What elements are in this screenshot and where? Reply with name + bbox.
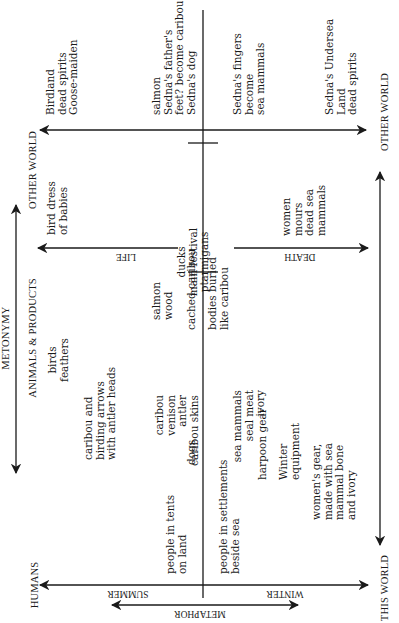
salmon-father-text-line: feet? become caribou	[173, 0, 185, 115]
settlements-text-line: beside sea	[229, 518, 241, 574]
women-mourn-text-line: women	[280, 198, 292, 236]
bodies-buried-text-line: like caribou	[218, 267, 230, 330]
women-mourn-text-line: mammals	[315, 185, 327, 236]
other-world-label-left: OTHER WORLD	[27, 131, 38, 209]
birdland-text-line: dead spirits	[56, 52, 68, 115]
dogs-text: dogs	[185, 440, 197, 465]
metaphor-label: METAPHOR	[174, 609, 226, 619]
salmon-father-text: salmonSedna's father'sfeet? become carib…	[150, 0, 197, 115]
salmon-father-text-line: Sedna's father's	[162, 30, 174, 115]
harpoon-text-line: harpoon gear	[256, 407, 268, 480]
bird-dress-text: bird dressof babies	[45, 181, 69, 235]
other-world-label-left-line: OTHER WORLD	[27, 131, 38, 209]
sedna-fingers-text-line: sea mammals	[254, 43, 266, 115]
animals-products-label-line: ANIMALS & PRODUCTS	[27, 278, 38, 398]
structural-diagram: OTHER WORLDOTHER WORLDTHIS WORLDHUMANSAN…	[0, 0, 399, 623]
metonymy-label: METONYMY	[0, 306, 11, 369]
metonymy-label-line: METONYMY	[0, 306, 11, 369]
this-world-label: THIS WORLD	[379, 555, 390, 621]
arrows-text-line: with antler heads	[105, 367, 117, 460]
salmon-wood-text-line: wood	[162, 291, 174, 320]
bodies-buried-text: bodies buriedlike caribou	[206, 257, 230, 330]
sedna-undersea-text-line: Sedna's Undersea	[323, 19, 335, 115]
sedna-undersea-text-line: Land	[335, 88, 347, 115]
womens-gear-text-line: and ivory	[345, 470, 357, 520]
caribou-text-line: venison	[165, 395, 177, 437]
death-label: DEATH	[284, 252, 315, 262]
bodies-buried-text-line: bodies buried	[206, 257, 218, 330]
humans-label-line: HUMANS	[29, 562, 40, 609]
birds-feathers-text: birdsfeathers	[46, 338, 70, 382]
metaphor-label-line: METAPHOR	[174, 609, 226, 619]
sea-mammals-text-line: sea mammals	[231, 390, 243, 462]
caribou-text-line: caribou	[153, 395, 165, 436]
summer-label-line: SUMMER	[107, 589, 149, 599]
birdland-text: Birdlanddead spiritsGoose-maiden	[44, 39, 79, 115]
women-mourn-text: womenmoursdead seamammals	[280, 185, 327, 236]
this-world-label-line: THIS WORLD	[379, 555, 390, 621]
bird-dress-text-line: of babies	[57, 187, 69, 235]
womens-gear-text-line: women's gear,	[310, 444, 322, 520]
winter-equipment-text-line: equipment	[289, 422, 301, 480]
death-label-line: DEATH	[284, 252, 315, 262]
cached-caribou-text-line: cached caribou	[185, 248, 197, 330]
sedna-fingers-text: Sedna's fingersbecomesea mammals	[231, 33, 266, 115]
birds-feathers-text-line: feathers	[58, 338, 70, 382]
salmon-wood-text-line: salmon	[150, 282, 162, 320]
winter-label-line: WINTER	[266, 589, 304, 599]
sedna-fingers-text-line: Sedna's fingers	[231, 33, 243, 115]
bird-dress-text-line: bird dress	[45, 181, 57, 235]
animals-products-label: ANIMALS & PRODUCTS	[27, 278, 38, 398]
womens-gear-text-line: made with sea	[322, 443, 334, 520]
salmon-father-text-line: Sedna's dog	[185, 50, 197, 115]
harpoon-text: harpoon gear	[256, 407, 268, 480]
sedna-fingers-text-line: become	[243, 74, 255, 115]
birdland-text-line: Birdland	[44, 69, 56, 115]
tents-text: people in tentson land	[164, 495, 188, 574]
arrows-text-line: birding arrows	[94, 381, 106, 460]
women-mourn-text-line: dead sea	[303, 189, 315, 236]
salmon-father-text-line: salmon	[150, 77, 162, 115]
caribou-text-line: antler	[176, 394, 188, 427]
women-mourn-text-line: mours	[292, 203, 304, 236]
life-label: LIFE	[116, 252, 136, 262]
sedna-undersea-text-line: dead spirits	[346, 52, 358, 115]
arrows-text-line: caribou and	[82, 396, 94, 460]
womens-gear-text-line: mammal bone	[333, 445, 345, 520]
summer-label: SUMMER	[107, 589, 149, 599]
sedna-undersea-text: Sedna's UnderseaLanddead spirits	[323, 19, 358, 115]
tents-text-line: people in tents	[164, 495, 176, 574]
arrows-text: caribou andbirding arrowswith antler hea…	[82, 367, 117, 460]
birds-feathers-text-line: birds	[46, 346, 58, 373]
salmon-wood-text: salmonwood	[150, 282, 174, 320]
humans-label: HUMANS	[29, 562, 40, 609]
winter-equipment-text-line: Winter	[277, 443, 289, 480]
birdland-text-line: Goose-maiden	[67, 39, 79, 115]
dogs-text-line: dogs	[185, 440, 197, 465]
winter-label: WINTER	[266, 589, 304, 599]
other-world-label-right-line: OTHER WORLD	[379, 73, 390, 151]
settlements-text-line: people in settlements	[217, 459, 229, 574]
other-world-label-right: OTHER WORLD	[379, 73, 390, 151]
life-label-line: LIFE	[116, 252, 136, 262]
settlements-text: people in settlementsbeside sea	[217, 459, 241, 574]
womens-gear-text: women's gear,made with seamammal boneand…	[310, 443, 357, 520]
cached-caribou-text: cached caribou	[185, 248, 197, 330]
sea-mammals-text-line: seal meat	[243, 389, 255, 441]
winter-equipment-text: Winterequipment	[277, 422, 301, 480]
tents-text-line: on land	[176, 534, 188, 574]
